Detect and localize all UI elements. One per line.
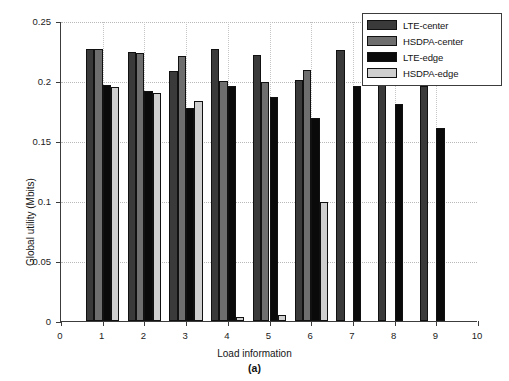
x-tick-mark (228, 321, 229, 326)
bar (261, 82, 269, 321)
legend-label: LTE-edge (403, 52, 443, 63)
x-tick-label: 10 (465, 330, 489, 341)
x-tick-label: 7 (340, 330, 364, 341)
y-tick-label: 0.25 (0, 16, 51, 27)
figure-subcaption: (a) (0, 362, 509, 374)
x-tick-label: 1 (90, 330, 114, 341)
bar (178, 56, 186, 321)
y-tick-label: 0.1 (0, 196, 51, 207)
bar (219, 81, 227, 321)
bar (228, 86, 236, 321)
y-tick-label: 0 (0, 316, 51, 327)
bar (270, 97, 278, 321)
bar (336, 50, 344, 321)
y-tick-mark (56, 22, 61, 23)
y-tick-mark (56, 202, 61, 203)
x-tick-mark (270, 321, 271, 326)
x-tick-label: 2 (131, 330, 155, 341)
bar (186, 108, 194, 321)
legend-item: HSDPA-center (367, 33, 497, 49)
bar (395, 104, 403, 321)
legend-swatch (367, 20, 397, 30)
y-tick-label: 0.05 (0, 256, 51, 267)
x-tick-label: 4 (215, 330, 239, 341)
legend-swatch (367, 36, 397, 46)
bar (353, 86, 361, 321)
y-tick-mark (56, 82, 61, 83)
bar (295, 80, 303, 321)
x-tick-mark (61, 321, 62, 326)
x-axis-title: Load information (0, 348, 509, 359)
legend-item: HSDPA-edge (367, 65, 497, 81)
bar (278, 315, 286, 321)
y-tick-mark (56, 142, 61, 143)
bar (236, 317, 244, 321)
figure-bar-chart: Global utility (Mbits) 00.050.10.150.20.… (0, 0, 509, 381)
bar (128, 52, 136, 321)
bar (136, 53, 144, 321)
bar (194, 101, 202, 321)
x-tick-label: 9 (423, 330, 447, 341)
bar (86, 49, 94, 321)
x-tick-mark (436, 321, 437, 326)
legend: LTE-centerHSDPA-centerLTE-edgeHSDPA-edge (362, 13, 502, 86)
legend-item: LTE-edge (367, 49, 497, 65)
bar (103, 85, 111, 321)
bar (320, 202, 328, 321)
bar (311, 118, 319, 321)
legend-label: HSDPA-edge (403, 68, 458, 79)
x-tick-mark (395, 321, 396, 326)
x-tick-label: 6 (298, 330, 322, 341)
bar (169, 71, 177, 321)
y-tick-label: 0.15 (0, 136, 51, 147)
x-tick-mark (186, 321, 187, 326)
x-tick-mark (353, 321, 354, 326)
x-tick-label: 0 (48, 330, 72, 341)
bar (420, 86, 428, 321)
x-tick-mark (144, 321, 145, 326)
bar (253, 55, 261, 321)
x-tick-mark (478, 321, 479, 326)
x-tick-mark (311, 321, 312, 326)
x-tick-mark (103, 321, 104, 326)
bar (94, 49, 102, 321)
x-tick-label: 5 (257, 330, 281, 341)
legend-swatch (367, 52, 397, 62)
x-tick-label: 3 (173, 330, 197, 341)
x-tick-label: 8 (382, 330, 406, 341)
legend-swatch (367, 68, 397, 78)
bar (378, 62, 386, 321)
bar (153, 93, 161, 321)
y-axis-title-label: Global utility (Mbits) (25, 178, 36, 266)
legend-label: HSDPA-center (403, 36, 463, 47)
legend-label: LTE-center (403, 20, 448, 31)
bar (436, 128, 444, 321)
y-tick-label: 0.2 (0, 76, 51, 87)
bar (303, 70, 311, 321)
bar (111, 87, 119, 321)
bar (144, 91, 152, 321)
legend-item: LTE-center (367, 17, 497, 33)
y-tick-mark (56, 262, 61, 263)
bar (211, 49, 219, 321)
